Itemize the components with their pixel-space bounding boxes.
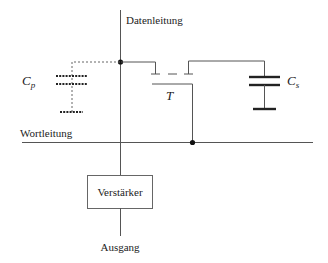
dram-cell-diagram: Datenleitung Cp T Cs Wortleitung Verstär [0,0,328,263]
output-label: Ausgang [100,241,140,253]
parasitic-connection-dashed [72,62,120,112]
transistor-source-wire [189,61,265,77]
amplifier-label: Verstärker [97,186,143,198]
transistor-drain-wire [121,62,156,74]
access-transistor: T [121,61,265,142]
transistor-label: T [166,88,174,103]
storage-capacitor: Cs [249,73,300,109]
word-line-label: Wortleitung [20,127,73,139]
storage-cap-label: Cs [287,73,300,90]
parasitic-cap-label: Cp [22,73,36,90]
parasitic-capacitor: Cp [22,62,120,112]
data-line-label: Datenleitung [126,14,183,26]
word-line-junction-dot [190,140,195,145]
